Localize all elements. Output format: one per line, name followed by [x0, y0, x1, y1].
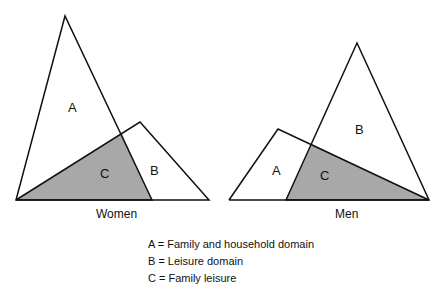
legend: A = Family and household domain B = Leis… — [148, 236, 314, 287]
women-caption: Women — [96, 207, 137, 221]
men-label-b: B — [355, 122, 364, 137]
women-label-c: C — [100, 166, 109, 181]
women-family-leisure-region — [16, 134, 152, 200]
men-label-a: A — [272, 163, 281, 178]
men-caption: Men — [335, 207, 358, 221]
legend-item-c: C = Family leisure — [148, 270, 314, 287]
legend-item-a: A = Family and household domain — [148, 236, 314, 253]
women-label-b: B — [150, 163, 159, 178]
men-label-c: C — [320, 168, 329, 183]
legend-item-b: B = Leisure domain — [148, 253, 314, 270]
women-label-a: A — [68, 100, 77, 115]
